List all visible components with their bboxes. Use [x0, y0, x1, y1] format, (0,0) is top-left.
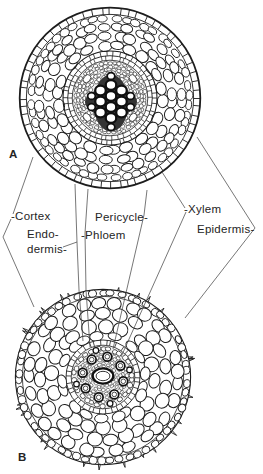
leader-cortex-upper: [13, 157, 33, 214]
cross-section-b: [15, 288, 194, 471]
label-cortex: -Cortex: [11, 210, 50, 222]
label-phloem: -Phloem: [81, 229, 126, 241]
label-pericycle: Pericycle-: [95, 211, 148, 223]
cross-section-a: [20, 8, 201, 189]
panel-a-letter: A: [9, 148, 18, 160]
panel-b-letter: B: [18, 451, 27, 463]
label-endodermis-line1: Endo-: [27, 228, 59, 240]
leader-xylem-upper: [162, 172, 185, 208]
figure-root-cross-sections: A -Cortex Endo- dermis- Pericycle- -Phlo…: [0, 0, 263, 474]
label-epidermis: Epidermis-: [197, 223, 254, 235]
label-xylem: -Xylem: [184, 203, 221, 215]
label-endodermis-line2: dermis-: [27, 243, 67, 255]
